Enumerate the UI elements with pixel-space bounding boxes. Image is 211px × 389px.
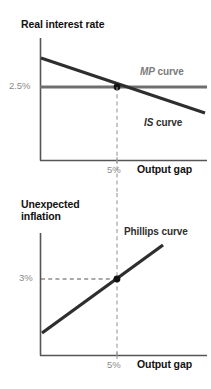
phillips-curve-line [42, 245, 163, 333]
top-x-tick-label: 5% [107, 165, 121, 176]
economics-figure: Real interest rate 2.5% MP curve IS curv… [0, 0, 211, 389]
figure-canvas [0, 0, 211, 389]
bottom-x-tick-label: 5% [107, 360, 121, 371]
top-y-tick-label: 2.5% [9, 81, 30, 92]
bottom-equilibrium-dot [114, 276, 121, 283]
top-panel-axes [40, 38, 207, 161]
is-curve-label: IS curve [144, 117, 182, 128]
mp-curve-label: MP curve [140, 66, 184, 77]
phillips-curve-label: Phillips curve [124, 226, 188, 237]
bottom-y-axis-title-line2: inflation [21, 211, 80, 223]
top-x-axis-title: Output gap [137, 164, 192, 176]
mp-curve-label-rest: curve [155, 66, 184, 77]
mp-curve-label-italic: MP [140, 66, 155, 77]
bottom-y-axis-title-line1: Unexpected [21, 199, 80, 211]
is-curve-label-italic: IS [144, 117, 153, 128]
bottom-panel-axes [40, 233, 207, 356]
bottom-y-tick-label: 3% [19, 273, 33, 284]
bottom-y-axis-title: Unexpected inflation [21, 199, 80, 223]
is-curve-label-rest: curve [153, 117, 182, 128]
bottom-x-axis-title: Output gap [137, 359, 192, 371]
top-y-axis-title: Real interest rate [21, 19, 104, 31]
